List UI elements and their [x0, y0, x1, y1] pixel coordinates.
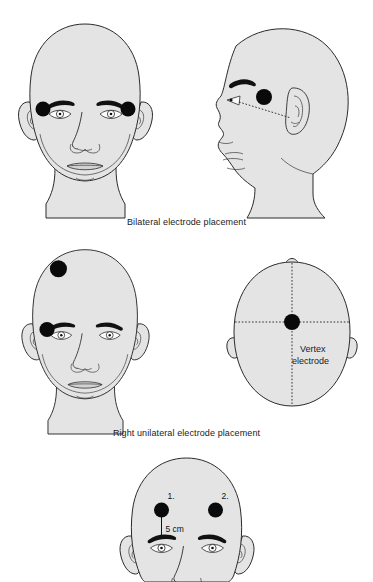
caption-bilateral: Bilateral electrode placement [0, 217, 373, 227]
electrode-2 [208, 503, 223, 518]
electrode-right-temple-unilateral [39, 322, 54, 337]
electrode-1 [154, 503, 169, 518]
panel-measured: 1. 2. 5 cm [0, 452, 373, 582]
electrode-right-temple [36, 102, 51, 117]
electrode-left-temple [121, 102, 136, 117]
electrode-1-label: 1. [168, 491, 175, 501]
electrode-2-label: 2. [222, 491, 229, 501]
panel-bilateral: Bilateral electrode placement [0, 0, 373, 232]
vertex-electrode-label-line1: Vertex [300, 344, 326, 354]
panel-unilateral: Vertex electrode Right unilateral electr… [0, 240, 373, 440]
bilateral-frontal-view [8, 18, 163, 218]
bilateral-profile-view [175, 18, 365, 218]
unilateral-frontal-view [8, 244, 163, 434]
unilateral-vertex-view: Vertex electrode [222, 252, 362, 422]
electrode-vertex [284, 314, 300, 330]
caption-unilateral: Right unilateral electrode placement [0, 428, 373, 438]
measured-frontal-view: 1. 2. 5 cm [109, 452, 265, 582]
electrode-temple-profile [256, 89, 272, 105]
vertex-electrode-label-line2: electrode [292, 356, 329, 366]
measurement-label-5cm: 5 cm [166, 524, 184, 534]
electrode-right-frontal-scalp [50, 260, 67, 277]
